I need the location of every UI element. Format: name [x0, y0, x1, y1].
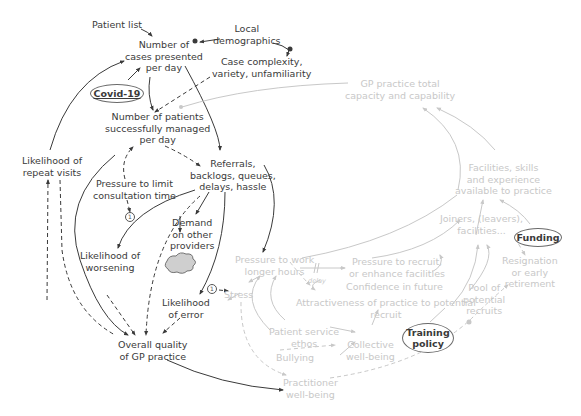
- node-cases-presented-line1: Number of: [125, 39, 203, 51]
- node-resignation-line1: Resignation: [502, 255, 558, 267]
- node-practitioner-wellbeing: Practitioner well-being: [283, 377, 338, 400]
- node-overall-quality: Overall quality of GP practice: [118, 339, 187, 362]
- node-collective-wellbeing: Collective well-being: [346, 339, 395, 362]
- node-error-line2: of error: [162, 309, 210, 321]
- node-joiners-line1: Joiners, (leavers),: [440, 213, 523, 225]
- node-patient-ethos: Patient service ethos: [269, 326, 339, 349]
- marker-1-consult: 1: [125, 212, 135, 222]
- node-covid-19-oval: Covid-19: [90, 84, 144, 103]
- node-demand-other: Demand on other providers: [170, 217, 215, 252]
- node-training-policy-oval: Training policy: [402, 323, 454, 353]
- node-patients-managed-line2: successfully managed: [105, 123, 210, 135]
- node-cases-presented: Number of cases presented per day: [125, 39, 203, 74]
- node-referrals-line3: delays, hassle: [190, 181, 276, 193]
- node-case-complexity: Case complexity, variety, unfamiliarity: [212, 56, 311, 79]
- node-demand-other-line3: providers: [170, 240, 215, 252]
- node-funding-oval: Funding: [514, 228, 562, 247]
- node-pressure-recruit-line1: Pressure to recruit,: [349, 256, 445, 268]
- node-worsening-line2: worsening: [80, 262, 140, 274]
- node-local-demographics: Local demographics: [213, 23, 281, 46]
- node-funding: Funding: [516, 232, 559, 243]
- node-practitioner-wellbeing-line2: well-being: [283, 389, 338, 401]
- node-pressure-work-line1: Pressure to work: [235, 254, 314, 266]
- node-resignation-line3: retirement: [502, 278, 558, 290]
- node-pressure-work-line2: longer hours: [235, 266, 314, 278]
- marker-1-stress: 1: [207, 284, 217, 294]
- node-attractiveness-line1: Attractiveness of practice to potential: [296, 297, 476, 309]
- node-patients-managed: Number of patients successfully managed …: [105, 111, 210, 146]
- node-patient-ethos-line1: Patient service: [269, 326, 339, 338]
- node-repeat-visits-line2: repeat visits: [22, 167, 82, 179]
- node-repeat-visits: Likelihood of repeat visits: [22, 155, 82, 178]
- node-worsening-line1: Likelihood of: [80, 250, 140, 262]
- node-referrals-line2: backlogs, queues,: [190, 170, 276, 182]
- node-resignation: Resignation or early retirement: [502, 255, 558, 290]
- node-resignation-line2: or early: [502, 267, 558, 279]
- node-demand-other-line1: Demand: [170, 217, 215, 229]
- node-joiners-line2: facilities...: [440, 225, 523, 237]
- node-repeat-visits-line1: Likelihood of: [22, 155, 82, 167]
- node-covid-19: Covid-19: [94, 88, 141, 99]
- node-overall-quality-line1: Overall quality: [118, 339, 187, 351]
- node-case-complexity-line1: Case complexity,: [212, 56, 311, 68]
- node-pressure-recruit: Pressure to recruit, or enhance faciliti…: [349, 256, 445, 279]
- cloud-icon: [165, 253, 195, 273]
- node-pressure-consult-line2: consultation time: [93, 190, 176, 202]
- node-cases-presented-line3: per day: [125, 62, 203, 74]
- node-facilities-skills: Facilities, skills and experience availa…: [455, 162, 552, 197]
- node-collective-wellbeing-line2: well-being: [346, 351, 395, 363]
- node-worsening: Likelihood of worsening: [80, 250, 140, 273]
- node-pool-recruits-line2: potential: [463, 294, 505, 306]
- node-referrals-line1: Referrals,: [190, 158, 276, 170]
- node-pressure-consult: Pressure to limit consultation time: [93, 178, 176, 201]
- node-practitioner-wellbeing-line1: Practitioner: [283, 377, 338, 389]
- node-error-line1: Likelihood: [162, 297, 210, 309]
- node-local-demographics-line2: demographics: [213, 35, 281, 47]
- node-attractiveness: Attractiveness of practice to potential …: [296, 297, 476, 320]
- node-pool-recruits: Pool of potential recruits: [463, 282, 505, 317]
- node-error: Likelihood of error: [162, 297, 210, 320]
- node-overall-quality-line2: of GP practice: [118, 351, 187, 363]
- node-bullying: Bullying: [276, 352, 314, 364]
- node-gp-capacity-line2: capacity and capability: [345, 90, 455, 102]
- node-facilities-skills-line1: Facilities, skills: [455, 162, 552, 174]
- node-pressure-consult-line1: Pressure to limit: [93, 178, 176, 190]
- node-demand-other-line2: on other: [170, 229, 215, 241]
- node-attractiveness-line2: recruit: [296, 309, 476, 321]
- node-pool-recruits-line1: Pool of: [463, 282, 505, 294]
- node-cases-presented-line2: cases presented: [125, 51, 203, 63]
- node-pressure-recruit-line2: or enhance facilities: [349, 268, 445, 280]
- node-local-demographics-line1: Local: [213, 23, 281, 35]
- delay-annotation: delay: [308, 277, 326, 285]
- node-gp-capacity-line1: GP practice total: [345, 78, 455, 90]
- node-patient-list: Patient list: [92, 19, 142, 31]
- node-training-policy-line2: policy: [406, 338, 449, 349]
- node-patient-ethos-line2: ethos: [269, 338, 339, 350]
- node-pool-recruits-line3: recruits: [463, 305, 505, 317]
- node-referrals: Referrals, backlogs, queues, delays, has…: [190, 158, 276, 193]
- node-collective-wellbeing-line1: Collective: [346, 339, 395, 351]
- node-joiners: Joiners, (leavers), facilities...: [440, 213, 523, 236]
- node-confidence: Confidence in future: [346, 281, 443, 293]
- node-facilities-skills-line3: available to practice: [455, 185, 552, 197]
- node-case-complexity-line2: variety, unfamiliarity: [212, 68, 311, 80]
- node-stress: Stress: [224, 289, 253, 301]
- node-pressure-work: Pressure to work longer hours: [235, 254, 314, 277]
- node-training-policy-line1: Training: [406, 327, 449, 338]
- node-facilities-skills-line2: and experience: [455, 174, 552, 186]
- node-gp-capacity: GP practice total capacity and capabilit…: [345, 78, 455, 101]
- node-patients-managed-line1: Number of patients: [105, 111, 210, 123]
- node-patients-managed-line3: per day: [105, 134, 210, 146]
